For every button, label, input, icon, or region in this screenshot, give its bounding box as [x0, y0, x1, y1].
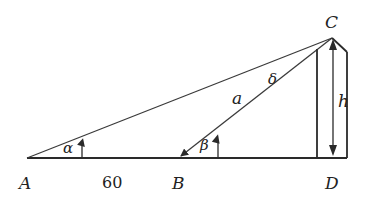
- triangle-diagram: A 60 B C D a h α β δ: [0, 0, 365, 201]
- point-label-C: C: [325, 12, 338, 32]
- point-label-A: A: [17, 173, 31, 193]
- angle-label-alpha: α: [63, 139, 73, 157]
- side-label-a: a: [232, 88, 242, 108]
- height-label-h: h: [338, 91, 349, 111]
- point-label-B: B: [171, 173, 185, 193]
- angle-label-delta: δ: [268, 70, 277, 88]
- height-arrow-bottom-icon: [329, 145, 337, 156]
- angle-label-beta: β: [199, 136, 209, 154]
- point-label-D: D: [324, 173, 339, 193]
- angle-beta-arrow-icon: [212, 133, 222, 144]
- angle-alpha-arrow-icon: [77, 137, 87, 147]
- distance-label-AB: 60: [102, 173, 122, 192]
